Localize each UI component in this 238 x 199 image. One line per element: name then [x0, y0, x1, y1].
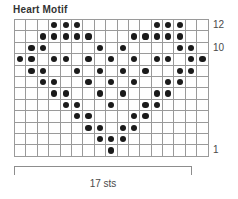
purl-dot-icon	[154, 56, 160, 62]
purl-stitch-cell	[83, 122, 94, 133]
knit-stitch-cell	[60, 122, 71, 133]
purl-stitch-cell	[174, 42, 185, 53]
row-number-label: 1	[213, 145, 219, 155]
purl-stitch-cell	[128, 111, 139, 122]
knit-stitch-cell	[60, 42, 71, 53]
purl-stitch-cell	[49, 54, 60, 65]
purl-stitch-cell	[128, 76, 139, 87]
knit-stitch-cell	[15, 31, 26, 42]
purl-dot-icon	[120, 68, 126, 74]
knit-stitch-cell	[71, 122, 82, 133]
purl-stitch-cell	[151, 99, 162, 110]
knit-stitch-cell	[94, 31, 105, 42]
purl-stitch-cell	[60, 54, 71, 65]
purl-stitch-cell	[71, 99, 82, 110]
knit-stitch-cell	[71, 145, 82, 156]
knit-stitch-cell	[151, 133, 162, 144]
purl-dot-icon	[85, 113, 91, 119]
purl-dot-icon	[40, 45, 46, 51]
purl-stitch-cell	[94, 42, 105, 53]
purl-dot-icon	[63, 33, 69, 39]
chart-row	[15, 145, 209, 156]
purl-stitch-cell	[49, 76, 60, 87]
knit-stitch-cell	[26, 88, 37, 99]
purl-stitch-cell	[106, 99, 117, 110]
purl-dot-icon	[63, 102, 69, 108]
purl-stitch-cell	[174, 76, 185, 87]
knit-stitch-cell	[185, 31, 196, 42]
knit-stitch-cell	[49, 122, 60, 133]
purl-dot-icon	[85, 125, 91, 131]
purl-dot-icon	[177, 33, 183, 39]
chart-row	[15, 42, 209, 53]
knit-stitch-cell	[163, 99, 174, 110]
purl-dot-icon	[108, 147, 114, 153]
knit-stitch-cell	[15, 88, 26, 99]
knit-stitch-cell	[37, 133, 48, 144]
purl-stitch-cell	[106, 145, 117, 156]
purl-dot-icon	[51, 22, 57, 28]
knit-stitch-cell	[185, 122, 196, 133]
knit-stitch-cell	[71, 54, 82, 65]
purl-stitch-cell	[60, 31, 71, 42]
knit-stitch-cell	[151, 122, 162, 133]
knit-stitch-cell	[197, 99, 208, 110]
purl-dot-icon	[74, 22, 80, 28]
purl-stitch-cell	[151, 54, 162, 65]
purl-stitch-cell	[71, 31, 82, 42]
knit-stitch-cell	[185, 99, 196, 110]
knit-stitch-cell	[49, 145, 60, 156]
chart-row	[15, 65, 209, 76]
purl-stitch-cell	[106, 133, 117, 144]
purl-stitch-cell	[117, 42, 128, 53]
knit-stitch-cell	[71, 42, 82, 53]
knit-stitch-cell	[197, 20, 208, 31]
purl-dot-icon	[177, 22, 183, 28]
knit-stitch-cell	[117, 54, 128, 65]
knit-stitch-cell	[185, 133, 196, 144]
knit-stitch-cell	[71, 133, 82, 144]
purl-dot-icon	[142, 102, 148, 108]
knit-stitch-cell	[174, 88, 185, 99]
purl-dot-icon	[97, 125, 103, 131]
knit-stitch-cell	[26, 111, 37, 122]
stitch-chart-grid-wrapper	[14, 19, 209, 157]
purl-dot-icon	[142, 113, 148, 119]
purl-stitch-cell	[15, 54, 26, 65]
purl-dot-icon	[85, 79, 91, 85]
knit-stitch-cell	[60, 76, 71, 87]
purl-dot-icon	[51, 56, 57, 62]
knit-stitch-cell	[15, 145, 26, 156]
knit-stitch-cell	[140, 133, 151, 144]
knit-stitch-cell	[174, 111, 185, 122]
knit-stitch-cell	[49, 133, 60, 144]
knit-stitch-cell	[185, 111, 196, 122]
knit-stitch-cell	[15, 122, 26, 133]
purl-dot-icon	[165, 90, 171, 96]
purl-stitch-cell	[117, 65, 128, 76]
purl-dot-icon	[97, 136, 103, 142]
knit-stitch-cell	[197, 31, 208, 42]
knit-stitch-cell	[26, 133, 37, 144]
knit-stitch-cell	[185, 76, 196, 87]
knit-stitch-cell	[83, 65, 94, 76]
knit-stitch-cell	[26, 122, 37, 133]
purl-stitch-cell	[26, 54, 37, 65]
knit-stitch-cell	[83, 133, 94, 144]
chart-row	[15, 133, 209, 144]
purl-stitch-cell	[117, 122, 128, 133]
chart-row	[15, 88, 209, 99]
knit-stitch-cell	[94, 99, 105, 110]
knit-stitch-cell	[94, 20, 105, 31]
purl-stitch-cell	[151, 31, 162, 42]
knit-stitch-cell	[15, 76, 26, 87]
knit-stitch-cell	[128, 88, 139, 99]
purl-stitch-cell	[174, 20, 185, 31]
knit-stitch-cell	[163, 42, 174, 53]
stitch-count-bracket	[14, 166, 192, 175]
purl-stitch-cell	[140, 31, 151, 42]
chart-row	[15, 76, 209, 87]
purl-dot-icon	[74, 102, 80, 108]
purl-stitch-cell	[37, 76, 48, 87]
row-number-labels: 12101	[213, 19, 237, 155]
